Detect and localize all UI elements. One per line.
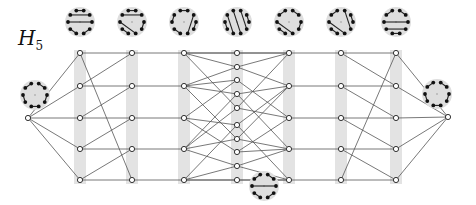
graph-node (393, 83, 398, 88)
disk-point (23, 86, 27, 90)
disk-point (172, 13, 176, 17)
graph-node (234, 149, 239, 154)
disk-point (29, 82, 33, 86)
edge (396, 117, 448, 118)
graph-node (234, 64, 239, 69)
disk-point (439, 81, 443, 85)
disk-point (43, 100, 47, 104)
disk-point (126, 9, 130, 13)
disk-center-mark (34, 94, 36, 96)
graph-node (181, 50, 186, 55)
disk-point (239, 32, 243, 36)
graph-node (77, 83, 82, 88)
edge (28, 118, 80, 180)
graph-node (338, 146, 343, 151)
edge (184, 125, 237, 180)
disk-center-mark (340, 21, 342, 23)
edge (237, 86, 289, 125)
graph-node (77, 50, 82, 55)
disk-point (404, 27, 408, 31)
disk-left (20, 80, 50, 110)
disk-point (245, 27, 249, 31)
graph-node (77, 146, 82, 151)
graph-node (393, 50, 398, 55)
graph-diagram (0, 0, 476, 205)
disk-point (272, 177, 276, 181)
disk-center-mark (436, 93, 438, 95)
disk-point (245, 13, 249, 17)
graph-node (286, 83, 291, 88)
edge (341, 53, 396, 180)
graph-node (129, 177, 134, 182)
edge (237, 67, 289, 86)
edge (237, 53, 289, 108)
graph-node (77, 115, 82, 120)
disk-point (349, 13, 353, 17)
graph-node (445, 114, 450, 119)
disk-point (231, 32, 235, 36)
graph-node (234, 177, 239, 182)
disk-point (140, 27, 144, 31)
graph-node (338, 83, 343, 88)
graph-node (181, 177, 186, 182)
disk-bottom (249, 171, 279, 201)
graph-node (286, 177, 291, 182)
graph-node (234, 136, 239, 141)
edge (341, 86, 396, 118)
graph-node (129, 83, 134, 88)
disk-point (277, 13, 281, 17)
disk-top-4 (222, 7, 252, 37)
disk-point (445, 85, 449, 89)
disk-point (178, 9, 182, 13)
disk-point (172, 27, 176, 31)
edge (28, 118, 80, 149)
disk-point (266, 173, 270, 177)
disk-top-6 (326, 7, 356, 37)
disk-point (231, 9, 235, 13)
disk-point (45, 93, 49, 97)
disk-point (423, 92, 427, 96)
graph-node (77, 177, 82, 182)
disk-point (272, 191, 276, 195)
graph-node (393, 115, 398, 120)
disk-point (68, 27, 72, 31)
graph-node (129, 50, 134, 55)
disk-point (186, 32, 190, 36)
disk-point (390, 32, 394, 36)
graph-node (234, 163, 239, 168)
disk-point (225, 27, 229, 31)
disk-point (425, 99, 429, 103)
disk-point (90, 20, 94, 24)
disk-point (283, 9, 287, 13)
disk-point (384, 13, 388, 17)
disk-point (343, 9, 347, 13)
disk-point (140, 13, 144, 17)
graph-node (129, 146, 134, 151)
disk-point (384, 27, 388, 31)
edge (80, 53, 132, 86)
graph-node (338, 177, 343, 182)
graph-node (129, 115, 134, 120)
edge (184, 108, 237, 149)
graph-node (234, 105, 239, 110)
graph-node (286, 115, 291, 120)
graph-node (338, 50, 343, 55)
disk-point (118, 20, 122, 24)
disk-point (68, 13, 72, 17)
disk-point (431, 81, 435, 85)
disk-point (225, 13, 229, 17)
edge (341, 118, 396, 149)
disk-point (82, 9, 86, 13)
disk-point (88, 13, 92, 17)
disk-point (335, 9, 339, 13)
edge (184, 118, 237, 152)
disk-point (186, 9, 190, 13)
disk-point (74, 32, 78, 36)
edge (184, 166, 237, 180)
disk-point (329, 13, 333, 17)
disk-top-1 (65, 7, 95, 37)
disk-point (247, 20, 251, 24)
disk-point (37, 105, 41, 109)
disk-point (88, 27, 92, 31)
edge (237, 86, 289, 94)
